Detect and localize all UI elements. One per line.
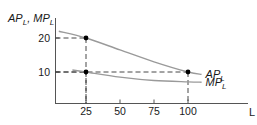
curve-labels: APLMPL (205, 68, 227, 91)
y-tick-label: 10 (38, 66, 50, 78)
y-tick-label: 20 (38, 32, 50, 44)
curves (59, 31, 202, 82)
x-tick-label: 50 (114, 105, 126, 117)
data-point (186, 70, 191, 75)
chart: APL, MPL L 2550751001020 APLMPL (0, 0, 257, 125)
data-point (84, 70, 89, 75)
x-tick-label: 25 (80, 105, 92, 117)
y-axis-title: APL, MPL (7, 12, 54, 27)
x-tick-label: 100 (179, 105, 197, 117)
ticks: 2550751001020 (38, 32, 197, 117)
x-axis-title: L (249, 106, 255, 118)
x-tick-label: 75 (148, 105, 160, 117)
data-point (84, 36, 89, 41)
